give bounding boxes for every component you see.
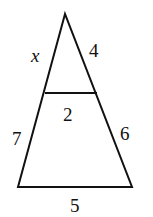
outer-triangle	[18, 14, 132, 187]
label-7: 7	[12, 128, 22, 149]
label-6: 6	[120, 123, 130, 144]
label-5: 5	[70, 195, 80, 216]
label-2: 2	[63, 104, 73, 125]
label-x: x	[30, 45, 40, 66]
triangle-diagram: x 4 2 7 6 5	[0, 0, 153, 217]
label-4: 4	[89, 40, 99, 61]
